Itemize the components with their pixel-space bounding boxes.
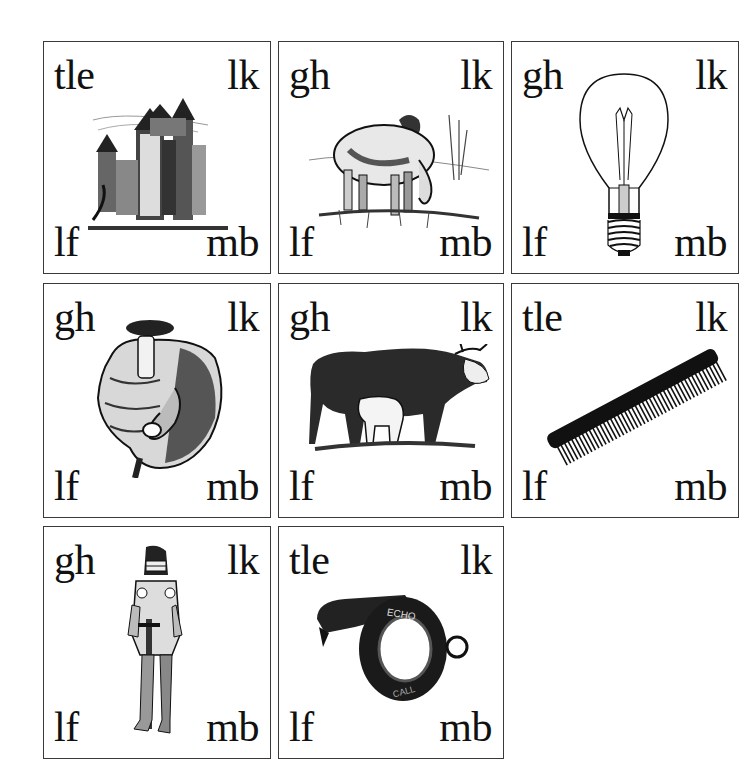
label-bottom-right: mb bbox=[439, 706, 492, 748]
label-bottom-right: mb bbox=[674, 465, 727, 507]
card-sheep: gh lk lf mb bbox=[278, 41, 504, 274]
label-top-left: gh bbox=[522, 54, 563, 96]
cow-and-calf-icon bbox=[305, 344, 495, 459]
thumb-fist-icon bbox=[90, 318, 240, 478]
label-bottom-right: mb bbox=[206, 221, 259, 263]
label-bottom-left: lf bbox=[54, 706, 79, 748]
label-top-left: gh bbox=[54, 539, 95, 581]
card-knight: gh lk lf mb bbox=[43, 526, 271, 759]
card-thumb-fist: gh lk lf mb bbox=[43, 283, 271, 518]
card-whistle: tle lk ECHO CALL lf mb bbox=[278, 526, 504, 759]
whistle-icon: ECHO CALL bbox=[315, 589, 475, 719]
label-bottom-left: lf bbox=[522, 465, 547, 507]
label-top-right: lk bbox=[695, 296, 727, 338]
label-bottom-left: lf bbox=[289, 221, 314, 263]
label-bottom-right: mb bbox=[439, 221, 492, 263]
card-castle: tle lk lf mb bbox=[43, 41, 271, 274]
card-light-bulb: gh lk lf mb bbox=[511, 41, 739, 274]
label-bottom-right: mb bbox=[674, 221, 727, 263]
sheep-icon bbox=[309, 100, 489, 230]
label-top-right: lk bbox=[695, 54, 727, 96]
label-bottom-left: lf bbox=[54, 221, 79, 263]
label-bottom-right: mb bbox=[206, 465, 259, 507]
label-top-right: lk bbox=[227, 54, 259, 96]
label-top-right: lk bbox=[460, 296, 492, 338]
label-top-left: gh bbox=[54, 296, 95, 338]
label-bottom-left: lf bbox=[54, 465, 79, 507]
label-top-right: lk bbox=[227, 539, 259, 581]
label-top-left: tle bbox=[289, 539, 329, 581]
label-top-right: lk bbox=[460, 54, 492, 96]
card-comb: tle lk lf mb bbox=[511, 283, 739, 518]
castle-icon bbox=[88, 90, 228, 230]
light-bulb-icon bbox=[576, 70, 672, 258]
label-bottom-left: lf bbox=[289, 465, 314, 507]
card-cow-and-calf: gh lk lf mb bbox=[278, 283, 504, 518]
comb-icon bbox=[540, 338, 730, 468]
label-bottom-right: mb bbox=[206, 706, 259, 748]
label-top-left: gh bbox=[289, 54, 330, 96]
label-bottom-left: lf bbox=[522, 221, 547, 263]
label-bottom-left: lf bbox=[289, 706, 314, 748]
knight-icon bbox=[124, 545, 190, 737]
label-bottom-right: mb bbox=[439, 465, 492, 507]
label-top-right: lk bbox=[460, 539, 492, 581]
label-top-left: tle bbox=[522, 296, 562, 338]
label-top-left: gh bbox=[289, 296, 330, 338]
